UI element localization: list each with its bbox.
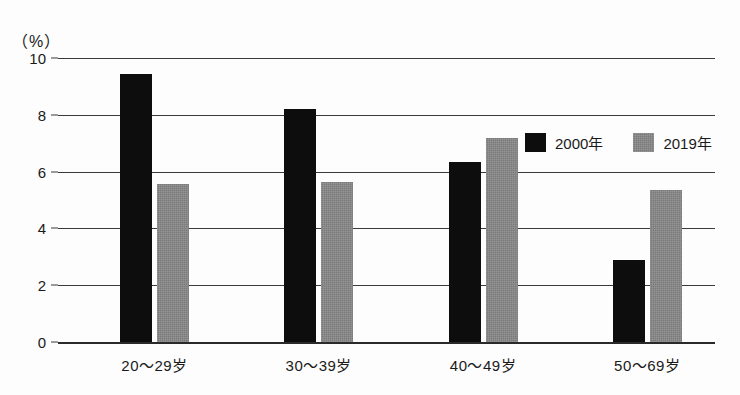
bar — [486, 138, 518, 342]
y-axis-tick-mark — [51, 228, 58, 229]
y-axis-tick-mark — [51, 171, 58, 172]
bar-group — [449, 58, 518, 342]
bar-group — [284, 58, 353, 342]
x-axis-tick-label: 50～69岁 — [614, 354, 680, 375]
bar — [284, 109, 316, 342]
bar — [120, 74, 152, 342]
y-axis-tick-mark — [51, 342, 58, 343]
bar — [613, 260, 645, 342]
y-axis-tick-mark — [51, 58, 58, 59]
plot-area: 2000年 2019年 — [58, 58, 715, 342]
axis-baseline — [58, 342, 715, 344]
bar-group — [120, 58, 189, 342]
bar — [157, 184, 189, 342]
y-axis-tick-label: 8 — [38, 106, 46, 123]
y-axis-tick-label: 6 — [38, 163, 46, 180]
y-axis-tick-label: 0 — [38, 334, 46, 351]
y-axis-unit-label: （%） — [12, 28, 61, 52]
x-axis-tick-label: 20～29岁 — [121, 354, 187, 375]
gray-square-swatch — [633, 133, 654, 152]
legend-label-2000: 2000年 — [555, 132, 603, 153]
y-axis-tick-mark — [51, 114, 58, 115]
x-axis-tick-label: 30～39岁 — [286, 354, 352, 375]
legend-item-2019: 2019年 — [633, 132, 711, 153]
y-axis-tick-label: 4 — [38, 220, 46, 237]
y-axis-tick-mark — [51, 285, 58, 286]
y-axis-tick-label: 2 — [38, 277, 46, 294]
bar — [321, 182, 353, 342]
black-square-swatch — [525, 133, 546, 152]
legend-item-2000: 2000年 — [525, 132, 603, 153]
y-axis: 1086420 — [0, 58, 52, 342]
bar — [650, 190, 682, 342]
bar-group — [613, 58, 682, 342]
y-axis-tick-label: 10 — [29, 50, 46, 67]
x-axis-tick-label: 40～49岁 — [450, 354, 516, 375]
bar — [449, 162, 481, 342]
x-axis: 20～29岁30～39岁40～49岁50～69岁 — [58, 348, 715, 384]
chart-legend: 2000年 2019年 — [525, 132, 712, 153]
legend-label-2019: 2019年 — [663, 132, 711, 153]
bar-chart-figure: （%） 1086420 2000年 2019年 20～29岁30～39岁40～4… — [0, 0, 740, 395]
